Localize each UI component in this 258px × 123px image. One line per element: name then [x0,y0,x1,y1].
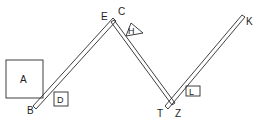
plank-b-e [33,18,116,109]
label-a: A [20,74,27,85]
label-h: H [128,26,135,36]
label-b: B [27,105,34,116]
label-e: E [101,11,108,22]
label-d: D [57,95,64,105]
label-k: K [246,16,253,27]
mechanics-diagram: A B D E C H T Z L K [0,0,258,123]
plank-z-k [165,15,245,109]
label-t: T [157,108,163,119]
label-c: C [118,6,125,17]
label-z: Z [175,108,181,119]
label-l: L [189,87,194,97]
